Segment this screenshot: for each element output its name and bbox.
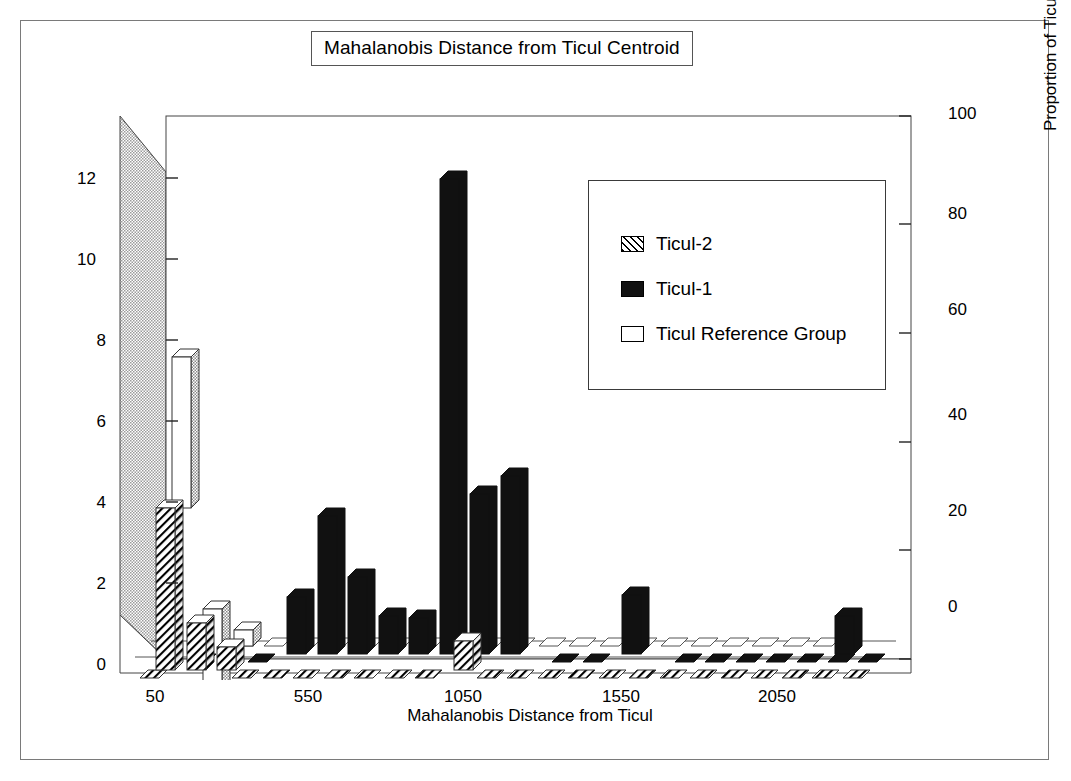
legend-item-ticul-1[interactable]: Ticul-1 [621,278,712,300]
y-right-tick-40: 40 [948,405,988,425]
open-swatch-icon [621,326,644,342]
y-right-tick-100: 100 [948,104,988,124]
bar-ticul-1-12 [501,468,528,654]
bar-ticul-1-9 [409,610,436,654]
bar-ticul-1-7 [348,569,375,654]
y-right-tick-60: 60 [948,300,988,320]
bar-ticul-2-1 [156,500,183,670]
legend-item-reference-group[interactable]: Ticul Reference Group [621,323,846,345]
y-left-tick-10: 10 [62,250,96,270]
legend-box: Ticul-2 Ticul-1 Ticul Reference Group [588,180,886,390]
bar-reference-group-1 [172,349,199,508]
y-axis-right-title: Proportion of Ticul Reference Group [1041,0,1061,205]
bar-ticul-1-20 [835,608,862,654]
x-tick-1550: 1550 [586,687,656,707]
legend-label-ticul-2: Ticul-2 [656,233,712,255]
legend-label-ticul-1: Ticul-1 [656,278,712,300]
y-left-tick-12: 12 [62,169,96,189]
x-tick-550: 550 [273,687,343,707]
y-left-tick-4: 4 [72,493,106,513]
legend-label-reference-group: Ticul Reference Group [656,323,846,345]
bar-ticul-1-11 [470,486,497,654]
y-left-tick-0: 0 [72,655,106,675]
bar-ticul-1-5 [287,589,314,654]
x-tick-1050: 1050 [428,687,498,707]
y-left-tick-8: 8 [72,331,106,351]
chart-legend: Ticul-2 Ticul-1 Ticul Reference Group [588,180,886,390]
hatch-swatch-icon [621,236,644,252]
chart-title-container: Mahalanobis Distance from Ticul Centroid [311,31,693,66]
page-title: Mahalanobis Distance from Ticul Centroid [311,31,693,66]
bar-ticul-2-3 [217,639,244,670]
x-tick-50: 50 [120,687,190,707]
y-right-tick-80: 80 [948,204,988,224]
bar-ticul-1-6 [318,508,345,654]
bar-ticul-1-8 [379,608,406,654]
y-left-tick-2: 2 [72,574,106,594]
bar-ticul-2-11 [454,633,481,670]
bar-ticul-2-2 [187,615,214,670]
solid-swatch-icon [621,281,644,297]
bar-ticul-1-15 [622,587,649,654]
y-right-tick-20: 20 [948,501,988,521]
legend-item-ticul-2[interactable]: Ticul-2 [621,233,712,255]
y-left-tick-6: 6 [72,412,106,432]
x-tick-2050: 2050 [742,687,812,707]
y-right-tick-0: 0 [948,597,988,617]
x-axis-title: Mahalanobis Distance from Ticul [300,706,760,726]
bar-ticul-1-10 [440,171,467,654]
